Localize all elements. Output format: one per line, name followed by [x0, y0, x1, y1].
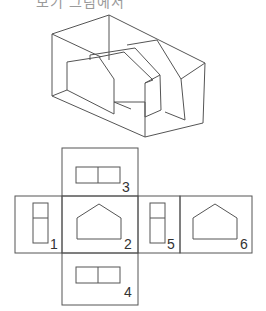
view-3: 3 — [62, 148, 138, 196]
view-label-2: 2 — [124, 236, 132, 252]
view-5: 5 — [138, 196, 180, 253]
view-2: 2 — [62, 196, 138, 253]
view-label-1: 1 — [50, 236, 58, 252]
drawing-canvas: 3 1 2 5 6 4 — [0, 0, 266, 311]
view-label-6: 6 — [240, 236, 248, 252]
view-6: 6 — [180, 196, 252, 253]
view-1: 1 — [15, 196, 62, 253]
view-label-5: 5 — [167, 236, 175, 252]
isometric-object — [52, 15, 205, 137]
view-label-4: 4 — [124, 284, 132, 300]
view-label-3: 3 — [122, 179, 130, 195]
view-4: 4 — [62, 253, 138, 305]
